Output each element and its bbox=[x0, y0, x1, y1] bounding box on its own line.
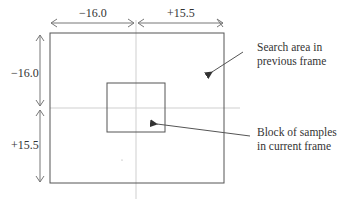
search-area-note: Search area in previous frame bbox=[257, 40, 326, 68]
label-vertical-top: −16.0 bbox=[11, 66, 39, 80]
search-area-note-line1: Search area in bbox=[257, 40, 326, 54]
speck-dot bbox=[121, 159, 122, 160]
label-vertical-bottom: +15.5 bbox=[11, 138, 39, 152]
block-note: Block of samples in current frame bbox=[257, 125, 337, 153]
diagram-graphics bbox=[0, 0, 339, 199]
block-note-line2: in current frame bbox=[257, 139, 337, 153]
search-area-pointer-arrow bbox=[212, 52, 243, 72]
block-note-line1: Block of samples bbox=[257, 125, 337, 139]
block-pointer-arrow bbox=[157, 124, 250, 136]
label-horizontal-left: −16.0 bbox=[79, 6, 107, 20]
search-area-note-line2: previous frame bbox=[257, 54, 326, 68]
dimension-arrow-horizontal-left bbox=[51, 19, 134, 27]
label-horizontal-right: +15.5 bbox=[167, 6, 195, 20]
motion-search-diagram: −16.0 +15.5 −16.0 +15.5 Search area in p… bbox=[0, 0, 339, 199]
dimension-arrow-horizontal-right bbox=[138, 19, 223, 27]
